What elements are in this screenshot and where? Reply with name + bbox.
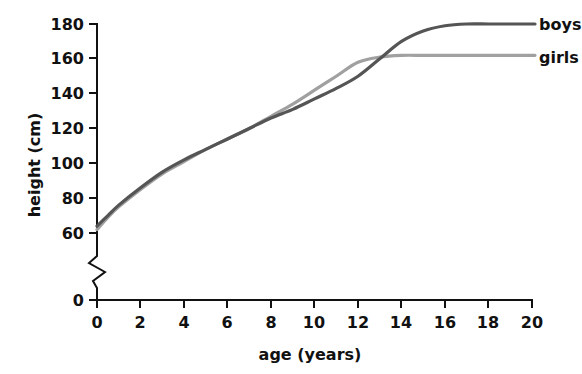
x-tick-label-14: 14 bbox=[390, 313, 412, 332]
growth-chart: 180 160 140 120 100 80 60 0 height (cm) bbox=[0, 0, 582, 374]
y-tick-label-140: 140 bbox=[51, 84, 84, 103]
y-tick-label-160: 160 bbox=[51, 49, 84, 68]
x-tick-label-6: 6 bbox=[221, 313, 232, 332]
y-tick-label-100: 100 bbox=[51, 154, 84, 173]
legend-label-girls: girls bbox=[539, 48, 579, 67]
x-tick-label-8: 8 bbox=[265, 313, 276, 332]
y-axis-title: height (cm) bbox=[25, 113, 44, 218]
y-tick-labels: 180 160 140 120 100 80 60 0 bbox=[51, 15, 84, 310]
y-axis-break-zigzag bbox=[89, 249, 105, 300]
x-tick-label-20: 20 bbox=[521, 313, 543, 332]
x-tick-label-18: 18 bbox=[477, 313, 499, 332]
x-axis-title: age (years) bbox=[259, 345, 362, 364]
x-tick-label-12: 12 bbox=[347, 313, 369, 332]
x-axis: 0 2 4 6 8 10 12 14 16 18 20 age (years) bbox=[91, 300, 543, 364]
x-tick-label-2: 2 bbox=[134, 313, 145, 332]
x-tick-label-0: 0 bbox=[91, 313, 102, 332]
x-tick-label-16: 16 bbox=[434, 313, 456, 332]
series-group bbox=[97, 24, 535, 230]
y-tick-label-80: 80 bbox=[62, 189, 84, 208]
legend-label-boys: boys bbox=[539, 15, 581, 34]
y-tick-label-60: 60 bbox=[62, 224, 84, 243]
chart-canvas: 180 160 140 120 100 80 60 0 height (cm) bbox=[0, 0, 582, 374]
y-tick-label-0: 0 bbox=[73, 291, 84, 310]
y-axis: 180 160 140 120 100 80 60 0 height (cm) bbox=[25, 15, 105, 310]
x-tick-label-10: 10 bbox=[303, 313, 325, 332]
x-tick-label-4: 4 bbox=[178, 313, 189, 332]
x-tick-labels: 0 2 4 6 8 10 12 14 16 18 20 bbox=[91, 313, 543, 332]
x-tick-marks bbox=[97, 300, 532, 308]
legend: boys girls bbox=[539, 15, 581, 67]
series-line-girls bbox=[97, 55, 535, 229]
y-tick-label-180: 180 bbox=[51, 15, 84, 34]
y-tick-label-120: 120 bbox=[51, 119, 84, 138]
